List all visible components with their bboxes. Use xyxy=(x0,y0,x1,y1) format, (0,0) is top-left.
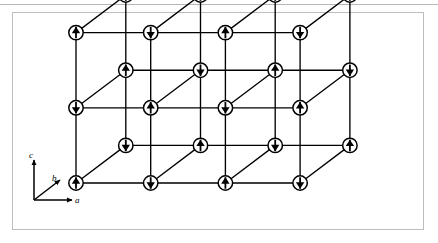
lattice-atom-group xyxy=(69,0,357,190)
lattice-bond xyxy=(76,145,126,183)
lattice-bond xyxy=(300,70,350,108)
lattice-bond xyxy=(76,70,126,108)
atom-spin-up xyxy=(193,0,207,2)
atom-spin-down xyxy=(119,0,133,2)
lattice-bond xyxy=(76,0,126,33)
atom-spin-up xyxy=(119,63,133,77)
atom-spin-up xyxy=(144,101,158,115)
atom-spin-down xyxy=(293,176,307,190)
atom-spin-up xyxy=(293,101,307,115)
atom-spin-down xyxy=(343,63,357,77)
lattice-bond xyxy=(300,145,350,183)
atom-spin-down xyxy=(193,63,207,77)
atom-spin-down xyxy=(144,25,158,39)
lattice-bond xyxy=(225,145,275,183)
crystal-lattice-diagram xyxy=(0,0,438,243)
atom-spin-down xyxy=(293,25,307,39)
atom-spin-up xyxy=(218,25,232,39)
lattice-bond xyxy=(151,145,201,183)
axis-label-a: a xyxy=(75,196,80,205)
figure-root: c b a xyxy=(0,0,438,243)
lattice-bond xyxy=(225,70,275,108)
atom-spin-down xyxy=(119,138,133,152)
axis-label-b: b xyxy=(52,174,57,183)
atom-spin-down xyxy=(268,0,282,2)
atom-spin-down xyxy=(268,138,282,152)
atom-spin-up xyxy=(69,176,83,190)
atom-spin-up xyxy=(218,176,232,190)
lattice-bond xyxy=(225,0,275,33)
atom-spin-down xyxy=(144,176,158,190)
axis-b-arrow xyxy=(34,180,60,200)
atom-spin-up xyxy=(69,25,83,39)
atom-spin-up xyxy=(343,0,357,2)
lattice-bond xyxy=(151,70,201,108)
lattice-bond xyxy=(300,0,350,33)
atom-spin-up xyxy=(343,138,357,152)
atom-spin-up xyxy=(193,138,207,152)
lattice-bond-lines xyxy=(76,0,350,183)
lattice-bond xyxy=(151,0,201,33)
axis-label-c: c xyxy=(29,151,33,160)
atom-spin-down xyxy=(69,101,83,115)
atom-spin-up xyxy=(268,63,282,77)
atom-spin-down xyxy=(218,101,232,115)
